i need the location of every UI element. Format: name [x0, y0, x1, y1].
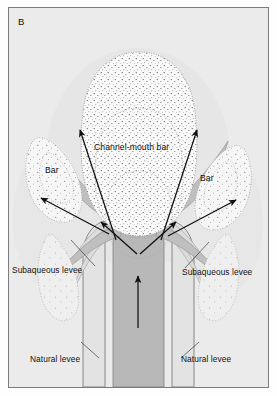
figure-frame: B Channel-mouth bar Bar Bar Subaqueous l…	[8, 7, 269, 388]
label-subaqueous-levee-right: Subaqueous levee	[182, 268, 252, 276]
diagram-canvas	[9, 8, 268, 387]
label-bar-left: Bar	[45, 166, 59, 175]
label-channel-mouth-bar: Channel-mouth bar	[94, 143, 169, 152]
label-subaqueous-levee-left: Subaqueous levee	[12, 266, 82, 274]
label-bar-right: Bar	[200, 174, 214, 183]
figure-panel-b: B Channel-mouth bar Bar Bar Subaqueous l…	[0, 0, 277, 396]
label-natural-levee-left: Natural levee	[30, 355, 80, 363]
panel-letter: B	[18, 16, 24, 27]
label-natural-levee-right: Natural levee	[181, 355, 231, 363]
